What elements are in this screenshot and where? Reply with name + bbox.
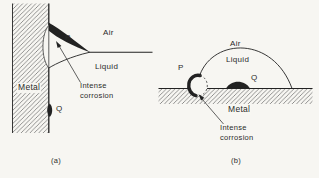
corrosion-diagram: P Air Liquid Intense corrosion Q Metal (… [0, 0, 319, 178]
caption-a: (a) [51, 156, 61, 166]
annotation-arrowhead-a [56, 41, 61, 48]
air-label-b: Air [230, 39, 241, 49]
point-q-label-a: Q [56, 104, 63, 114]
intense-corrosion-label-a: Intense corrosion [80, 81, 114, 100]
metal-label-b: Metal [227, 105, 251, 115]
point-q-label-b: Q [251, 73, 258, 83]
liquid-label-a: Liquid [95, 62, 118, 72]
point-p-label-b: P [178, 63, 184, 73]
point-p-label-a: P [65, 33, 71, 43]
liquid-label-b: Liquid [226, 55, 249, 65]
panel-a [13, 4, 153, 134]
corrosion-spot-q-b [226, 82, 250, 89]
air-label-a: Air [103, 28, 114, 38]
metal-slab-hatch [13, 4, 49, 134]
metal-label-a: Metal [17, 83, 41, 93]
intense-corrosion-label-b: Intense corrosion [220, 123, 254, 142]
meniscus-curve [49, 52, 90, 68]
caption-b: (b) [231, 156, 241, 166]
metal-surface-hatch [159, 89, 313, 105]
annotation-leader-a [59, 45, 81, 83]
diagram-canvas [0, 0, 319, 178]
